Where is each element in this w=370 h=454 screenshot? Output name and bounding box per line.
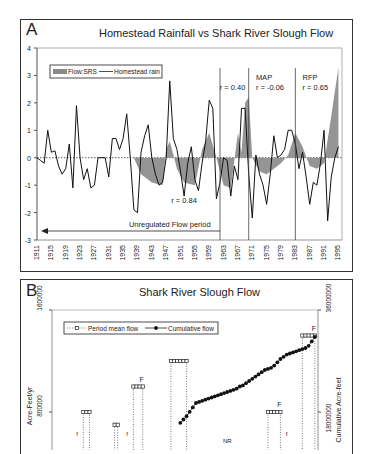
period-mean-marker xyxy=(185,359,188,362)
period-mean-marker xyxy=(169,359,172,362)
y-left-axis-label: Acre-Feet/yr xyxy=(26,386,34,425)
period-mean-marker xyxy=(82,410,85,413)
period-mean-marker xyxy=(85,410,88,413)
period-swatch-marker xyxy=(76,327,79,330)
cumulative-flow-point xyxy=(310,340,314,344)
flow-marker-label: f xyxy=(76,431,78,437)
legend-cumulative-label: Cumulative flow xyxy=(168,325,214,332)
cumulative-flow-point xyxy=(235,387,239,391)
flow-marker-label: F xyxy=(277,401,281,408)
cumulative-flow-point xyxy=(244,381,248,385)
period-mean-marker xyxy=(301,334,304,337)
cumulative-flow-point xyxy=(272,364,276,368)
flow-marker-label: f xyxy=(286,431,288,437)
legend-b: Period mean flowCumulative flow xyxy=(64,322,218,334)
cumulative-flow-point xyxy=(178,421,182,425)
period-mean-marker xyxy=(135,385,138,388)
cumulative-flow-point xyxy=(247,379,251,383)
cumulative-flow-point xyxy=(313,335,317,339)
period-mean-marker xyxy=(132,385,135,388)
period-mean-marker xyxy=(276,410,279,413)
cumulative-flow-point xyxy=(260,370,264,374)
period-mean-marker xyxy=(179,359,182,362)
period-mean-marker xyxy=(279,410,282,413)
cumulative-flow-point xyxy=(275,360,279,364)
period-mean-marker xyxy=(266,410,269,413)
cumulative-flow-point xyxy=(257,373,261,377)
y-right-tick-label: 36000000 xyxy=(325,283,332,312)
cumulative-flow-point xyxy=(250,377,254,381)
cumulative-flow-point xyxy=(304,346,308,350)
y-right-tick-label: 18000000 xyxy=(325,403,332,432)
cumulative-flow-point xyxy=(191,406,195,410)
cumulative-flow-point xyxy=(307,344,311,348)
cumulative-flow-point xyxy=(254,375,258,379)
y-left-tick-label: 1600000 xyxy=(36,285,43,311)
period-mean-marker xyxy=(307,334,310,337)
y-left-tick-label: 800000 xyxy=(36,395,43,417)
flow-marker-label: NR xyxy=(223,438,232,444)
period-mean-marker xyxy=(141,385,144,388)
cumulative-flow-point xyxy=(188,410,192,414)
cumulative-flow-point xyxy=(282,355,286,359)
period-mean-marker xyxy=(269,410,272,413)
cumulative-flow-point xyxy=(279,357,283,361)
period-mean-marker xyxy=(113,423,116,426)
flow-marker-label: F xyxy=(312,325,316,332)
legend-period-label: Period mean flow xyxy=(88,325,139,332)
period-mean-marker xyxy=(273,410,276,413)
cumulative-flow-point xyxy=(182,418,186,422)
cumulative-swatch-marker xyxy=(154,326,158,330)
cumulative-flow-point xyxy=(241,384,245,388)
period-mean-marker xyxy=(182,359,185,362)
cumulative-flow-point xyxy=(185,414,189,418)
period-mean-marker xyxy=(310,334,313,337)
cumulative-flow-line xyxy=(180,337,315,423)
flow-marker-label: F xyxy=(140,376,144,383)
period-mean-marker xyxy=(88,410,91,413)
flow-marker-label: f xyxy=(126,431,128,437)
cumulative-flow-point xyxy=(269,366,273,370)
period-mean-marker xyxy=(138,385,141,388)
period-mean-marker xyxy=(116,423,119,426)
period-mean-marker xyxy=(304,334,307,337)
period-mean-marker xyxy=(172,359,175,362)
y-right-axis-label: Cumulative Acre-feet xyxy=(335,377,342,442)
period-mean-marker xyxy=(176,359,179,362)
